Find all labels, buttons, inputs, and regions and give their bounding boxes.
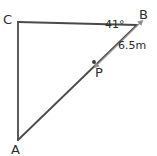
geometry-diagram: C B A P 41° 6.5m xyxy=(0,0,157,156)
point-p-marker xyxy=(92,60,96,64)
vertex-label-p: P xyxy=(95,66,103,79)
vertex-label-c: C xyxy=(3,13,12,26)
angle-label-b: 41° xyxy=(105,19,125,30)
triangle-svg xyxy=(0,0,157,156)
vertex-label-a: A xyxy=(11,143,20,156)
vertex-label-b: B xyxy=(139,8,148,21)
distance-label-pb: 6.5m xyxy=(118,40,146,51)
